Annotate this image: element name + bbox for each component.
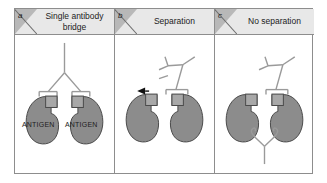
antibody-arm-bent-lower: [159, 66, 168, 70]
antibody-lower-arm-left: [255, 137, 264, 146]
antibody-bridge: [39, 43, 90, 97]
panel-b-body: [115, 35, 214, 173]
antibody-upper: [259, 57, 295, 95]
antigen-label-left: ANTIGEN: [22, 121, 55, 128]
epitope-box-right: [72, 96, 83, 107]
epitope-box-right: [172, 94, 183, 105]
panel-a-title-line1: Single antibody: [45, 11, 103, 22]
panel-b-illustration: [115, 35, 214, 173]
panel-a-body: ANTIGEN ANTIGEN: [15, 35, 114, 173]
panel-c-letter-tab: c: [215, 9, 237, 34]
panel-a-illustration: [15, 35, 114, 173]
antibody-antigen-figure: a Single antibody bridge: [0, 0, 327, 183]
epitope-box-right: [272, 94, 283, 105]
antibody-stem-tilted: [176, 65, 183, 90]
release-arrow-icon: [137, 88, 145, 95]
antibody-free-segment: [159, 76, 168, 79]
panel-b-title: Separation: [137, 9, 212, 34]
epitope-box-left: [46, 96, 57, 107]
panel-a-header: a Single antibody bridge: [15, 9, 114, 35]
panel-a-title-line2: bridge: [45, 22, 103, 33]
panel-c-title: No separation: [237, 9, 312, 34]
antibody-lower-arm-right: [265, 137, 274, 146]
panel-c: c No separation: [214, 9, 314, 173]
antibody-arm-bent-tip: [165, 57, 168, 66]
epitope-box-left-unbound: [146, 94, 157, 105]
antibody-arm-left: [48, 73, 64, 92]
panel-a: a Single antibody bridge: [15, 9, 114, 173]
antibody-stem-tilted: [276, 65, 283, 90]
panel-b-letter: b: [118, 11, 122, 20]
panel-b-letter-tab: b: [115, 9, 137, 34]
antibody-arm-bent-lower: [259, 66, 268, 70]
antibody-arm-bent: [268, 65, 283, 66]
antibody-arm-bent-tip: [265, 57, 268, 66]
figure-frame: a Single antibody bridge: [14, 8, 313, 174]
panel-a-letter: a: [18, 11, 22, 20]
panel-c-body: [215, 35, 314, 173]
panel-b: b Separation: [114, 9, 214, 173]
panel-c-illustration: [215, 35, 314, 173]
antigen-label-right: ANTIGEN: [65, 121, 98, 128]
panel-c-header: c No separation: [215, 9, 314, 35]
panel-a-letter-tab: a: [15, 9, 37, 34]
antibody-arm-free: [283, 57, 295, 65]
epitope-box-left: [246, 94, 257, 105]
antibody-detached: [159, 57, 195, 95]
antibody-arm-right: [65, 73, 81, 92]
panel-a-title: Single antibody bridge: [37, 9, 112, 34]
antibody-arm-bent: [168, 65, 183, 66]
panel-c-letter: c: [218, 11, 222, 20]
panel-b-header: b Separation: [115, 9, 214, 35]
antibody-arm-free: [183, 57, 195, 65]
